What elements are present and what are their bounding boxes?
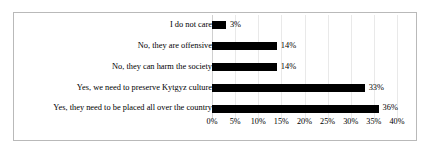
bar-container: 14% (212, 36, 418, 57)
category-label: I do not care (18, 21, 212, 29)
bar-row: I do not care3% (14, 15, 418, 36)
bar-container: 3% (212, 15, 418, 36)
bar-row: Yes, they need to be placed all over the… (14, 98, 418, 119)
x-tick-label: 40% (389, 118, 404, 126)
x-tick-label: 30% (343, 118, 358, 126)
bar-container: 14% (212, 57, 418, 78)
category-label: Yes, they need to be placed all over the… (18, 104, 212, 112)
bar[interactable] (212, 105, 379, 113)
bar[interactable] (212, 42, 277, 50)
x-tick-label: 10% (251, 118, 266, 126)
x-tick-label: 15% (274, 118, 289, 126)
bar[interactable] (212, 21, 226, 29)
bar-value-label: 3% (230, 21, 241, 29)
x-axis: 0%5%10%15%20%25%30%35%40% (212, 118, 418, 128)
bar-chart: I do not care3%No, they are offensive14%… (14, 13, 418, 142)
bar[interactable] (212, 84, 365, 92)
x-tick-label: 0% (207, 118, 218, 126)
chart-frame: I do not care3%No, they are offensive14%… (13, 12, 417, 141)
bar-value-label: 33% (369, 84, 384, 92)
bar-rows: I do not care3%No, they are offensive14%… (14, 15, 418, 119)
bar-row: No, they can harm the society14% (14, 57, 418, 78)
bar-value-label: 14% (281, 63, 296, 71)
bar-value-label: 14% (281, 42, 296, 50)
category-label: Yes, we need to preserve Kytgyz culture (18, 84, 212, 92)
x-tick-label: 35% (366, 118, 381, 126)
bar-container: 33% (212, 77, 418, 98)
bar-row: Yes, we need to preserve Kytgyz culture3… (14, 77, 418, 98)
x-tick-label: 5% (230, 118, 241, 126)
x-tick-label: 25% (320, 118, 335, 126)
bar-container: 36% (212, 98, 418, 119)
category-label: No, they can harm the society (18, 63, 212, 71)
category-label: No, they are offensive (18, 42, 212, 50)
bar-value-label: 36% (383, 104, 398, 112)
bar[interactable] (212, 63, 277, 71)
x-tick-label: 20% (297, 118, 312, 126)
bar-row: No, they are offensive14% (14, 36, 418, 57)
